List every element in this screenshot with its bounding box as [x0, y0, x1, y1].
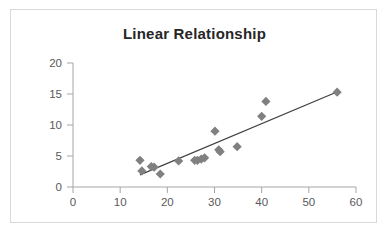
data-point-marker — [210, 127, 219, 136]
y-tick-label: 20 — [49, 57, 62, 69]
y-tick-label: 10 — [49, 119, 62, 131]
x-axis-ticks — [73, 187, 356, 193]
chart-container: Linear Relationship 05101520 01020304050… — [10, 9, 377, 223]
x-tick-label: 40 — [255, 196, 268, 208]
data-point-marker — [261, 97, 270, 106]
x-tick-label: 0 — [70, 196, 76, 208]
y-tick-label: 5 — [56, 150, 62, 162]
y-axis-tick-labels: 05101520 — [49, 57, 62, 193]
data-point-marker — [137, 166, 146, 175]
data-point-marker — [135, 156, 144, 165]
y-axis-ticks — [67, 63, 73, 187]
x-axis-tick-labels: 0102030405060 — [70, 196, 363, 208]
data-point-marker — [156, 169, 165, 178]
x-tick-label: 20 — [161, 196, 174, 208]
y-axis: 05101520 — [49, 57, 73, 193]
x-axis: 0102030405060 — [70, 187, 363, 208]
data-point-marker — [257, 112, 266, 121]
scatter-plot: 05101520 0102030405060 — [11, 10, 378, 224]
trend-line-segment — [140, 92, 338, 175]
data-point-marker — [333, 88, 342, 97]
data-point-marker — [233, 142, 242, 151]
y-tick-label: 15 — [49, 88, 62, 100]
x-tick-label: 30 — [208, 196, 221, 208]
x-tick-label: 50 — [302, 196, 315, 208]
y-tick-label: 0 — [56, 181, 62, 193]
trend-line — [140, 92, 338, 175]
x-tick-label: 60 — [350, 196, 363, 208]
x-tick-label: 10 — [114, 196, 127, 208]
